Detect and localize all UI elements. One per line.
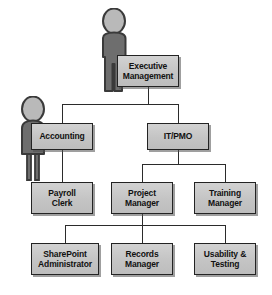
node-training-manager-label: Training Manager <box>208 188 242 209</box>
node-training-manager[interactable]: Training Manager <box>194 182 256 214</box>
connector-itpmo-stem <box>178 150 179 164</box>
node-payroll-clerk-label: Payroll Clerk <box>48 188 75 209</box>
connector-to-accounting <box>62 104 63 123</box>
node-it-pmo[interactable]: IT/PMO <box>147 123 209 150</box>
node-executive-management-label: Executive Management <box>123 61 173 82</box>
connector-accounting-to-payroll <box>62 150 63 182</box>
connector-to-usability <box>225 225 226 243</box>
connector-bus-level1 <box>62 104 179 105</box>
node-sharepoint-administrator[interactable]: SharePoint Administrator <box>31 243 99 275</box>
connector-to-training-manager <box>225 164 226 182</box>
connector-exec-stem <box>148 87 149 104</box>
node-project-manager-label: Project Manager <box>125 188 159 209</box>
node-it-pmo-label: IT/PMO <box>164 131 192 142</box>
node-usability-testing[interactable]: Usability & Testing <box>194 243 256 275</box>
node-records-manager[interactable]: Records Manager <box>111 243 173 275</box>
connector-project-manager-stem <box>142 214 143 225</box>
node-project-manager[interactable]: Project Manager <box>111 182 173 214</box>
connector-to-project-manager <box>142 164 143 182</box>
connector-to-itpmo <box>178 104 179 123</box>
connector-to-records <box>142 225 143 243</box>
node-executive-management[interactable]: Executive Management <box>117 55 179 87</box>
connector-to-sharepoint <box>65 225 66 243</box>
connector-bus-level3 <box>65 225 225 226</box>
node-records-manager-label: Records Manager <box>125 249 159 270</box>
node-accounting[interactable]: Accounting <box>31 123 93 150</box>
org-chart-diagram: Executive Management Accounting IT/PMO P… <box>0 0 272 295</box>
node-usability-testing-label: Usability & Testing <box>204 249 246 270</box>
connector-bus-level2 <box>142 164 225 165</box>
node-sharepoint-administrator-label: SharePoint Administrator <box>38 249 92 270</box>
node-payroll-clerk[interactable]: Payroll Clerk <box>31 182 93 214</box>
node-accounting-label: Accounting <box>39 131 84 142</box>
